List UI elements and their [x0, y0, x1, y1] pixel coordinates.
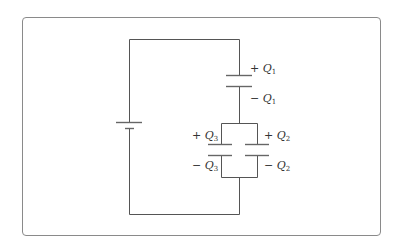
c3-plus-symbol: Q	[205, 129, 214, 142]
c1-plus-sign: +	[250, 62, 259, 75]
c2-plus-sub: 2	[286, 135, 290, 143]
c3-plus-label: + Q3	[192, 130, 218, 143]
c2-minus-sub: 2	[286, 165, 290, 173]
wire-left-top	[130, 40, 240, 123]
circuit-diagram	[0, 0, 402, 250]
wire-parallel-top	[222, 124, 258, 145]
c3-plus-sign: +	[192, 129, 201, 142]
wire-parallel-bottom	[222, 155, 258, 178]
c1-minus-sub: 1	[272, 98, 276, 106]
c3-minus-sub: 3	[214, 165, 218, 173]
c1-minus-sign: −	[250, 92, 259, 105]
c2-plus-sign: +	[264, 129, 273, 142]
c2-minus-symbol: Q	[277, 159, 286, 172]
c1-plus-symbol: Q	[263, 62, 272, 75]
c3-minus-symbol: Q	[205, 159, 214, 172]
c1-plus-sub: 1	[272, 68, 276, 76]
c3-minus-label: − Q3	[192, 160, 218, 173]
c3-minus-sign: −	[192, 159, 201, 172]
c1-plus-label: + Q1	[250, 63, 276, 76]
wire-left-bottom	[130, 128, 240, 215]
c2-plus-label: + Q2	[264, 130, 290, 143]
c1-minus-label: − Q1	[250, 93, 276, 106]
c3-plus-sub: 3	[214, 135, 218, 143]
c2-minus-sign: −	[264, 159, 273, 172]
c2-plus-symbol: Q	[277, 129, 286, 142]
c1-minus-symbol: Q	[263, 92, 272, 105]
c2-minus-label: − Q2	[264, 160, 290, 173]
